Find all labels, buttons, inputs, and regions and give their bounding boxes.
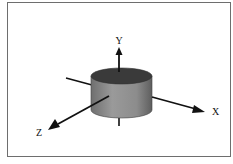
x-axis: X [152,97,220,117]
y-axis: Y [116,35,123,72]
z-axis: Z [36,96,109,138]
cylinder [91,68,152,118]
z-axis-label: Z [36,127,42,138]
x-arrowhead-icon [192,105,205,113]
y-axis-label: Y [116,35,123,46]
cylinder-top [91,68,152,84]
y-arrowhead-icon [116,47,123,55]
x-axis-label: X [212,106,220,117]
x-axis-back [66,78,92,85]
z-arrowhead-icon [48,119,60,130]
axes-diagram: Y X Z [0,0,233,164]
